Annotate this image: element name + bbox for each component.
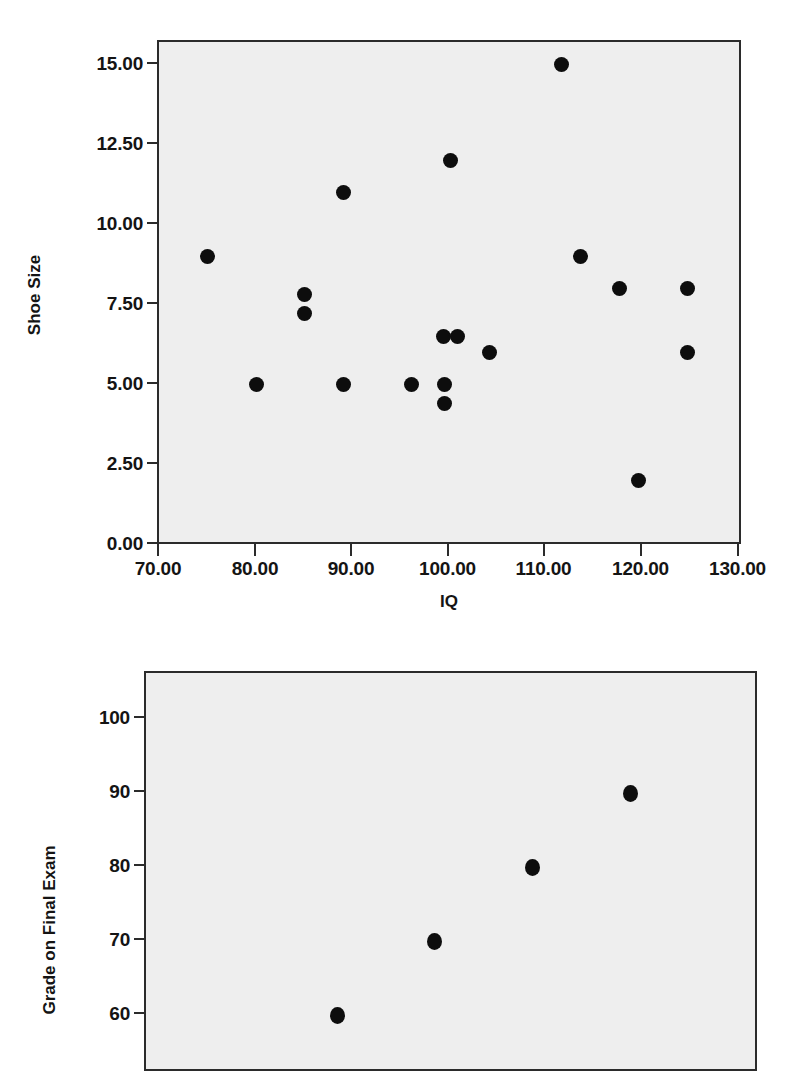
data-point: [200, 249, 215, 264]
y-tick-label-0: 0.00: [48, 533, 143, 555]
y-tick-label-7-50: 7.50: [48, 293, 143, 315]
y-tick-label-2-50: 2.50: [48, 453, 143, 475]
data-point: [482, 345, 497, 360]
x-tick-mark: [737, 544, 739, 556]
data-point: [612, 281, 627, 296]
data-point: [336, 185, 351, 200]
data-point: [450, 329, 465, 344]
plot-area-grade-on-final-exam: [144, 671, 757, 1071]
data-point: [437, 396, 452, 411]
y-axis-title-shoe-size: Shoe Size: [25, 215, 45, 375]
data-point: [436, 329, 451, 344]
data-point: [404, 377, 419, 392]
x-tick-label-80: 80.00: [205, 558, 305, 580]
data-point: [297, 287, 312, 302]
data-point: [680, 281, 695, 296]
x-tick-label-90: 90.00: [301, 558, 401, 580]
y-tick-label-10: 10.00: [48, 213, 143, 235]
data-point: [249, 377, 264, 392]
y-tick-label-60: 60: [55, 1003, 130, 1025]
data-point: [437, 377, 452, 392]
y-tick-label-5: 5.00: [48, 373, 143, 395]
y-tick-label-12-50: 12.50: [48, 133, 143, 155]
x-tick-mark: [157, 544, 159, 556]
x-tick-label-70: 70.00: [108, 558, 208, 580]
data-point: [623, 785, 638, 802]
data-point: [443, 153, 458, 168]
y-tick-label-80: 80: [55, 855, 130, 877]
x-tick-mark: [543, 544, 545, 556]
data-point: [525, 859, 540, 876]
y-tick-label-100: 100: [55, 707, 130, 729]
data-point: [631, 473, 646, 488]
x-tick-mark: [447, 544, 449, 556]
data-point: [573, 249, 588, 264]
y-tick-label-90: 90: [55, 781, 130, 803]
x-tick-mark: [254, 544, 256, 556]
data-point: [297, 306, 312, 321]
y-tick-label-70: 70: [55, 929, 130, 951]
data-point: [336, 377, 351, 392]
y-tick-label-15: 15.00: [48, 53, 143, 75]
x-axis-title-iq: IQ: [399, 592, 499, 612]
x-tick-label-100: 100.00: [396, 558, 499, 580]
data-point: [427, 933, 442, 950]
plot-surface: [146, 673, 755, 1069]
x-tick-mark: [350, 544, 352, 556]
x-tick-label-130: 130.00: [686, 558, 788, 580]
plot-surface: [159, 42, 739, 542]
data-point: [554, 57, 569, 72]
x-tick-label-120: 120.00: [589, 558, 692, 580]
data-point: [330, 1007, 345, 1024]
plot-area-shoe-size-vs-iq: [157, 40, 741, 544]
x-tick-label-110: 110.00: [492, 558, 595, 580]
x-tick-mark: [640, 544, 642, 556]
data-point: [680, 345, 695, 360]
